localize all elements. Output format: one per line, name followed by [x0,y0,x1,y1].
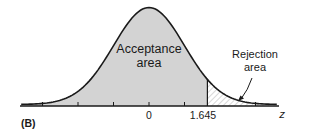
rejection-label-line2: area [244,62,266,73]
tick-label-critical: 1.645 [190,110,216,121]
rejection-arrow [241,78,252,99]
acceptance-label-line2: area [136,57,161,70]
tick-label-zero: 0 [146,110,152,121]
acceptance-label-line1: Acceptance [116,43,181,56]
panel-label: (B) [21,118,36,129]
rejection-label-line1: Rejection [232,49,278,60]
acceptance-area [21,8,207,106]
axis-variable-label: z [279,109,285,121]
